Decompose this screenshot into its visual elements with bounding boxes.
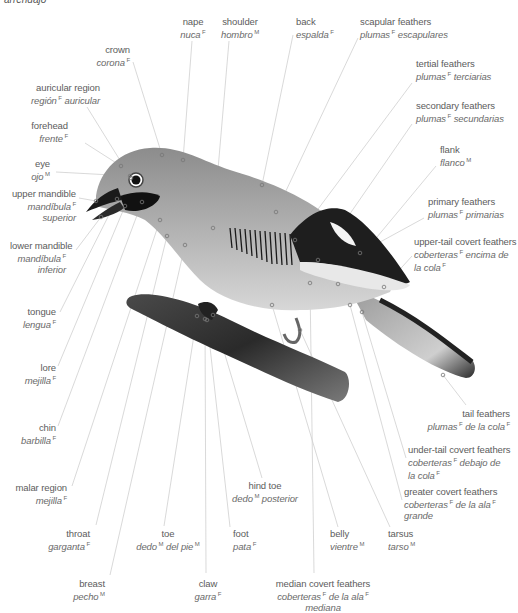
label-upper_mandible: upper mandiblemandíbula Fsuperior xyxy=(10,188,76,223)
gender-marker: F xyxy=(448,499,453,505)
gender-marker: F xyxy=(63,133,68,139)
gender-marker: M xyxy=(253,493,259,499)
gender-marker: F xyxy=(51,435,56,441)
label-english: malar region xyxy=(12,482,67,493)
gender-marker: F xyxy=(458,209,463,215)
gender-marker: F xyxy=(125,57,130,63)
label-spanish-cont: grande xyxy=(404,510,508,521)
gender-marker: M xyxy=(193,541,199,547)
label-english: tail feathers xyxy=(420,408,510,419)
label-english: lore xyxy=(12,362,56,373)
label-chin: chinbarbilla F xyxy=(12,422,56,446)
gender-marker: F xyxy=(458,421,463,427)
label-spanish-cont: inferior xyxy=(10,264,66,275)
label-spanish: plumas F de la cola F xyxy=(420,419,510,432)
gender-marker: F xyxy=(491,499,496,505)
label-english: primary feathers xyxy=(428,196,518,207)
gender-marker: M xyxy=(44,171,50,177)
label-english: lower mandible xyxy=(10,240,66,251)
label-tarsus: tarsustarso M xyxy=(388,528,428,552)
label-spanish: barbilla F xyxy=(12,433,56,446)
gender-marker: F xyxy=(61,253,66,259)
label-crown: crowncorona F xyxy=(90,44,130,68)
gender-marker: F xyxy=(452,457,457,463)
label-english: auricular region xyxy=(20,82,100,93)
label-spanish: pata F xyxy=(233,539,273,552)
gender-marker: F xyxy=(51,375,56,381)
label-english: forehead xyxy=(28,120,68,131)
leader-toe xyxy=(164,316,197,526)
label-english: back xyxy=(296,16,356,27)
label-spanish: mandíbula F xyxy=(10,199,76,212)
gender-marker: F xyxy=(435,470,440,476)
gender-marker: F xyxy=(390,29,395,35)
leader-upper_mandible xyxy=(79,198,96,201)
label-spanish: flanco M xyxy=(440,155,500,168)
label-spanish: ojo M xyxy=(10,169,50,182)
label-spanish: espalda F xyxy=(296,27,356,40)
label-spanish: corona F xyxy=(90,55,130,68)
label-english: foot xyxy=(233,528,273,539)
gender-marker: M xyxy=(157,541,163,547)
label-spanish: plumas F terciarias xyxy=(416,69,516,82)
gender-marker: F xyxy=(505,421,510,427)
label-throat: throatgarganta F xyxy=(40,528,90,552)
label-secondary: secondary feathersplumas F secundarias xyxy=(416,100,516,124)
label-spanish: hombro M xyxy=(210,27,270,40)
label-english: tertial feathers xyxy=(416,58,516,69)
label-english: tongue xyxy=(12,306,56,317)
label-forehead: foreheadfrente F xyxy=(28,120,68,144)
gender-marker: M xyxy=(253,29,259,35)
label-english: shoulder xyxy=(210,16,270,27)
label-flank: flankflanco M xyxy=(440,144,500,168)
label-english: hind toe xyxy=(220,480,310,491)
gender-marker: F xyxy=(85,541,90,547)
leader-median_covert xyxy=(310,283,314,573)
label-eye: eyeojo M xyxy=(10,158,50,182)
gender-marker: F xyxy=(364,591,369,597)
label-english: breast xyxy=(50,578,105,589)
gender-marker: F xyxy=(57,95,62,101)
leader-back xyxy=(262,35,293,185)
gender-marker: F xyxy=(441,262,446,268)
label-english: throat xyxy=(40,528,90,539)
leader-lower_mandible xyxy=(76,217,101,250)
label-spanish: garganta F xyxy=(40,539,90,552)
label-english: scapular feathers xyxy=(360,16,480,27)
label-english: median covert feathers xyxy=(258,578,388,589)
label-spanish: coberteras F encima de xyxy=(414,247,514,260)
label-spanish: región F auricular xyxy=(20,93,100,106)
label-english: belly xyxy=(330,528,380,539)
label-foot: footpata F xyxy=(233,528,273,552)
label-spanish-cont: la cola F xyxy=(408,468,512,481)
label-primary: primary feathersplumas F primarias xyxy=(428,196,518,220)
gender-marker: F xyxy=(71,201,76,207)
label-english: greater covert feathers xyxy=(404,486,508,497)
label-english: under-tail covert feathers xyxy=(408,444,512,455)
label-tail: tail feathersplumas F de la cola F xyxy=(420,408,510,432)
label-spanish: vientre M xyxy=(330,539,380,552)
gender-marker: M xyxy=(358,541,364,547)
label-english: crown xyxy=(90,44,130,55)
label-under_tail: under-tail covert featherscoberteras F d… xyxy=(408,444,512,481)
label-lower_mandible: lower mandiblemandíbula Finferior xyxy=(10,240,66,275)
label-claw: clawgarra F xyxy=(188,578,228,602)
gender-marker: F xyxy=(321,591,326,597)
label-spanish: plumas F primarias xyxy=(428,207,518,220)
label-shoulder: shoulderhombro M xyxy=(210,16,270,40)
gender-marker: F xyxy=(446,113,451,119)
gender-marker: F xyxy=(458,249,463,255)
label-tongue: tonguelengua F xyxy=(12,306,56,330)
leader-scapular xyxy=(276,38,358,212)
label-scapular: scapular feathersplumas F escapulares xyxy=(360,16,480,40)
gender-marker: F xyxy=(446,71,451,77)
label-spanish: mejilla F xyxy=(12,373,56,386)
leader-chin xyxy=(58,202,142,426)
label-spanish: garra F xyxy=(188,589,228,602)
label-english: upper-tail covert feathers xyxy=(414,236,514,247)
label-toe: toededo M del pie M xyxy=(128,528,208,552)
label-spanish: plumas F secundarias xyxy=(416,111,516,124)
gender-marker: F xyxy=(329,29,334,35)
gender-marker: F xyxy=(216,591,221,597)
label-breast: breastpecho M xyxy=(50,578,105,602)
